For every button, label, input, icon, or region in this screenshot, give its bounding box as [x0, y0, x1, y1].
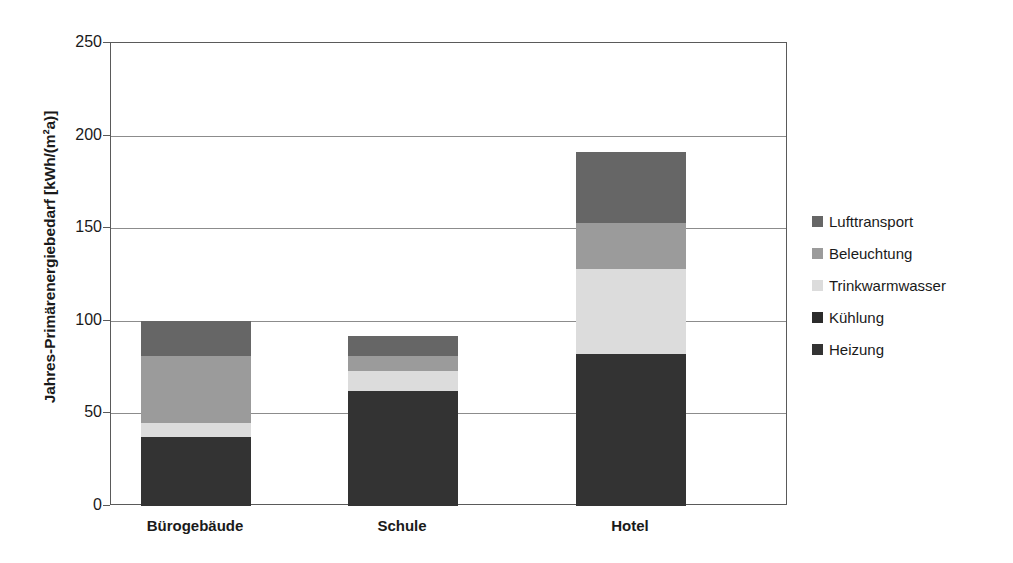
- stacked-bar-chart: Jahres-Primärenergiebedarf [kWh/(m²a)] 0…: [0, 0, 1013, 563]
- x-tick-label-schule: Schule: [377, 517, 426, 534]
- y-tick-label: 100: [50, 311, 110, 329]
- bar-segment-lufttransport[interactable]: [576, 152, 686, 222]
- legend-label: Heizung: [829, 342, 884, 357]
- y-tick-label: 250: [50, 33, 110, 51]
- legend-swatch-icon: [812, 216, 823, 227]
- bar-segment-beleuchtung[interactable]: [141, 356, 251, 423]
- legend-item-heizung[interactable]: Heizung: [812, 333, 1012, 365]
- bar-segment-trinkwarmwasser[interactable]: [348, 371, 458, 391]
- legend-swatch-icon: [812, 344, 823, 355]
- legend-item-lufttransport[interactable]: Lufttransport: [812, 205, 1012, 237]
- legend-item-beleuchtung[interactable]: Beleuchtung: [812, 237, 1012, 269]
- bar-segment-lufttransport[interactable]: [348, 336, 458, 356]
- bar-segment-lufttransport[interactable]: [141, 321, 251, 356]
- bar-2[interactable]: [348, 43, 458, 506]
- legend-swatch-icon: [812, 280, 823, 291]
- chart-legend: LufttransportBeleuchtungTrinkwarmwasserK…: [812, 205, 1012, 365]
- legend-swatch-icon: [812, 248, 823, 259]
- bar-1[interactable]: [141, 43, 251, 506]
- legend-item-kühlung[interactable]: Kühlung: [812, 301, 1012, 333]
- legend-label: Beleuchtung: [829, 246, 912, 261]
- y-tick-label: 200: [50, 126, 110, 144]
- y-tick-label: 50: [50, 403, 110, 421]
- bar-segment-trinkwarmwasser[interactable]: [141, 423, 251, 438]
- x-tick-label-bürogebäude: Bürogebäude: [147, 517, 244, 534]
- y-tick-mark: [103, 505, 110, 506]
- y-axis-ticks: 050100150200250: [0, 0, 110, 563]
- bar-3[interactable]: [576, 43, 686, 506]
- bar-segment-heizung[interactable]: [348, 391, 458, 506]
- bar-segment-beleuchtung[interactable]: [576, 223, 686, 269]
- y-tick-mark: [103, 412, 110, 413]
- bar-segment-trinkwarmwasser[interactable]: [576, 269, 686, 354]
- legend-label: Lufttransport: [829, 214, 913, 229]
- y-tick-mark: [103, 320, 110, 321]
- bar-segment-beleuchtung[interactable]: [348, 356, 458, 371]
- legend-label: Kühlung: [829, 310, 884, 325]
- y-tick-mark: [103, 42, 110, 43]
- legend-item-trinkwarmwasser[interactable]: Trinkwarmwasser: [812, 269, 1012, 301]
- x-tick-label-hotel: Hotel: [611, 517, 649, 534]
- y-tick-label: 0: [50, 496, 110, 514]
- y-tick-mark: [103, 227, 110, 228]
- legend-swatch-icon: [812, 312, 823, 323]
- y-tick-mark: [103, 135, 110, 136]
- plot-area: [110, 42, 787, 505]
- legend-label: Trinkwarmwasser: [829, 278, 946, 293]
- y-tick-label: 150: [50, 218, 110, 236]
- bar-segment-heizung[interactable]: [576, 354, 686, 506]
- bar-segment-heizung[interactable]: [141, 437, 251, 506]
